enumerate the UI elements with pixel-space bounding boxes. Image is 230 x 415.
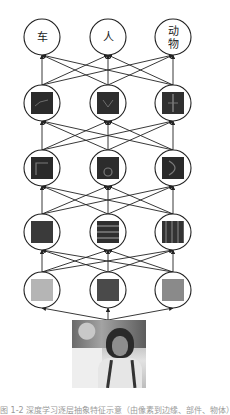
output-node-1: 车: [24, 19, 60, 55]
pixels-node-3: [155, 272, 191, 308]
hidden-1-node-3: [155, 214, 191, 250]
feature-patch: [31, 92, 53, 114]
output-label: 动: [168, 25, 179, 38]
feature-patch: [31, 221, 53, 243]
output-label: 物: [168, 37, 179, 51]
pixels-node-2: [90, 272, 126, 308]
feature-patch: [162, 157, 184, 179]
output-label: 车: [37, 30, 48, 44]
hidden-2-node-1: [24, 150, 60, 186]
feature-patch: [162, 221, 184, 243]
input-arrow: [42, 308, 108, 320]
pixels-node-1: [24, 272, 60, 308]
hidden-3-node-2: [90, 85, 126, 121]
hidden-2-node-3: [155, 150, 191, 186]
hidden-3-node-1: [24, 85, 60, 121]
output-label: 人: [103, 31, 114, 44]
input-arrow: [108, 308, 173, 320]
output-node-3: 动物: [155, 19, 191, 55]
feature-patch: [97, 279, 119, 301]
output-node-2: 人: [90, 19, 126, 55]
feature-patch: [162, 279, 184, 301]
feature-patch: [31, 157, 53, 179]
hidden-1-node-2: [90, 214, 126, 250]
input-photo: [72, 320, 146, 388]
feature-patch: [31, 279, 53, 301]
photo-person-face: [112, 336, 128, 356]
feature-patch: [97, 221, 119, 243]
feature-patch: [97, 92, 119, 114]
network-nodes: 车人动物: [24, 19, 191, 308]
figure-caption: 图 1-2 深度学习逐层抽象特征示意（由像素到边缘、部件、物体）: [0, 404, 207, 415]
hidden-1-node-1: [24, 214, 60, 250]
hidden-2-node-2: [90, 150, 126, 186]
hidden-3-node-3: [155, 85, 191, 121]
